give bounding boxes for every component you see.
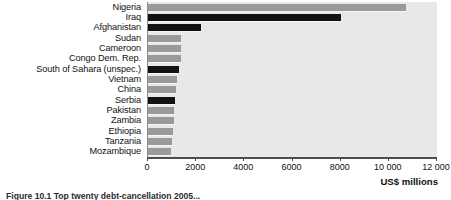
x-tick — [436, 157, 437, 161]
bar — [148, 35, 181, 42]
category-label: Ethiopia — [0, 126, 144, 136]
bar-row — [148, 23, 437, 33]
bar-row — [148, 147, 437, 157]
bar-row — [148, 136, 437, 146]
x-tick — [292, 157, 293, 161]
bar-row — [148, 116, 437, 126]
category-label: Tanzania — [0, 136, 144, 146]
category-label: China — [0, 85, 144, 95]
x-tick-label: 4000 — [233, 162, 253, 172]
x-tick — [340, 157, 341, 161]
x-tick — [243, 157, 244, 161]
bar-row — [148, 105, 437, 115]
x-tick-label: 2000 — [185, 162, 205, 172]
x-tick — [147, 157, 148, 161]
bar — [148, 97, 175, 104]
plot-area — [147, 2, 437, 157]
bar — [148, 66, 179, 73]
category-label: Iraq — [0, 12, 144, 22]
x-tick-label: 10 000 — [374, 162, 402, 172]
bar-row — [148, 33, 437, 43]
bar — [148, 4, 406, 11]
x-tick — [195, 157, 196, 161]
bar — [148, 55, 181, 62]
bar-series — [148, 2, 437, 157]
bar-chart: NigeriaIraqAfghanistanSudanCameroonCongo… — [0, 0, 451, 200]
bar — [148, 138, 172, 145]
bar — [148, 128, 173, 135]
category-label-column: NigeriaIraqAfghanistanSudanCameroonCongo… — [0, 2, 144, 157]
category-label: Congo Dem. Rep. — [0, 54, 144, 64]
category-label: Zambia — [0, 116, 144, 126]
category-label: Cameroon — [0, 43, 144, 53]
bar — [148, 24, 201, 31]
category-label: South of Sahara (unspec.) — [0, 64, 144, 74]
x-tick-label: 6000 — [281, 162, 301, 172]
category-label: Afghanistan — [0, 23, 144, 33]
x-axis-label: US$ millions — [380, 176, 438, 187]
bar-row — [148, 126, 437, 136]
bar-row — [148, 95, 437, 105]
bar — [148, 148, 171, 155]
category-label: Mozambique — [0, 147, 144, 157]
bar — [148, 117, 174, 124]
x-tick-label: 0 — [144, 162, 149, 172]
bar — [148, 107, 174, 114]
category-label: Sudan — [0, 33, 144, 43]
x-axis-ticks: 0200040006000800010 00012 000 — [147, 157, 436, 171]
bar-row — [148, 74, 437, 84]
bar — [148, 14, 341, 21]
category-label: Vietnam — [0, 74, 144, 84]
bar-row — [148, 85, 437, 95]
bar — [148, 45, 181, 52]
category-label: Pakistan — [0, 105, 144, 115]
x-tick-label: 8000 — [330, 162, 350, 172]
x-tick-label: 12 000 — [422, 162, 450, 172]
bar-row — [148, 2, 437, 12]
figure-caption: Figure 10.1 Top twenty debt-cancellation… — [6, 191, 200, 200]
bar — [148, 86, 176, 93]
x-tick — [388, 157, 389, 161]
bar-row — [148, 64, 437, 74]
bar-row — [148, 12, 437, 22]
bar — [148, 76, 177, 83]
category-label: Serbia — [0, 95, 144, 105]
category-label: Nigeria — [0, 2, 144, 12]
bar-row — [148, 43, 437, 53]
bar-row — [148, 54, 437, 64]
